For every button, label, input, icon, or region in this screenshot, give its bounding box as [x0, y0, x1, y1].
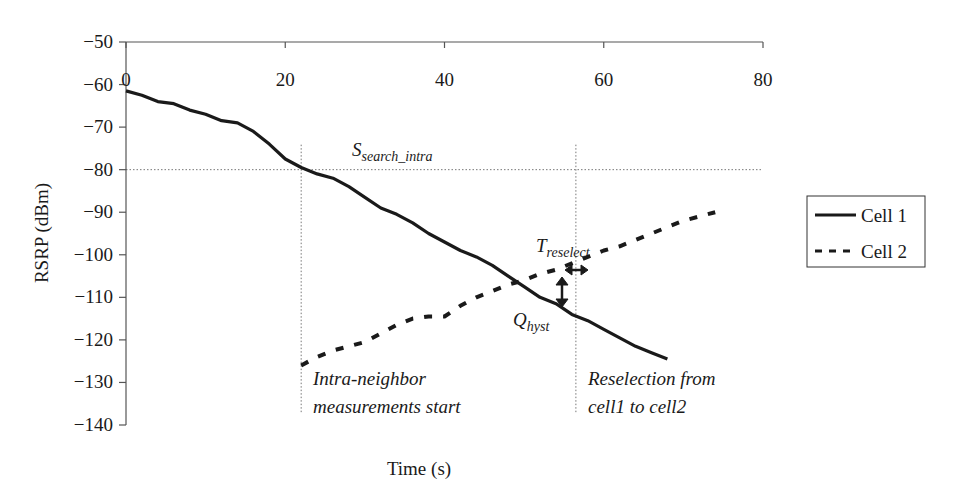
s-sub: search_intra	[362, 149, 433, 164]
q-hyst-label: Qhyst	[513, 309, 550, 334]
reselection-label-line1: Reselection from	[587, 368, 716, 389]
y-tick-label: −100	[74, 244, 113, 265]
legend: Cell 1 Cell 2	[807, 196, 925, 267]
s-main: S	[352, 139, 362, 160]
y-tick-label: −130	[74, 371, 113, 392]
q-main: Q	[513, 309, 527, 330]
x-tick-label: 0	[121, 69, 131, 90]
t-sub: reselect	[547, 245, 591, 260]
intra-neighbor-label-line2: measurements start	[313, 396, 461, 417]
x-tick-label: 40	[435, 69, 454, 90]
cell2-line	[301, 212, 715, 365]
y-tick-label: −140	[74, 414, 113, 435]
chart-svg: −50−60−70−80−90−100−110−120−130−14002040…	[0, 0, 958, 504]
y-tick-label: −70	[83, 116, 113, 137]
x-axis-title: Time (s)	[387, 458, 451, 480]
y-tick-label: −120	[74, 329, 113, 350]
x-tick-label: 80	[754, 69, 773, 90]
x-tick-label: 20	[276, 69, 295, 90]
legend-label-cell2: Cell 2	[861, 241, 907, 262]
y-tick-label: −110	[74, 286, 113, 307]
legend-label-cell1: Cell 1	[861, 205, 907, 226]
q-sub: hyst	[527, 319, 551, 334]
data-series	[126, 91, 715, 366]
t-reselect-label: Treselect	[536, 235, 591, 260]
reselection-label-line2: cell1 to cell2	[588, 396, 687, 417]
q-hyst-arrow-icon	[556, 277, 568, 307]
x-tick-label: 60	[594, 69, 613, 90]
y-tick-label: −50	[83, 31, 113, 52]
y-tick-label: −60	[83, 74, 113, 95]
cell1-line	[126, 91, 667, 359]
chart: −50−60−70−80−90−100−110−120−130−14002040…	[0, 0, 958, 504]
s-search-intra-label: Ssearch_intra	[352, 139, 433, 164]
y-tick-label: −90	[83, 201, 113, 222]
y-tick-label: −80	[83, 159, 113, 180]
intra-neighbor-label-line1: Intra-neighbor	[312, 368, 427, 389]
y-axis-title: RSRP (dBm)	[31, 183, 53, 283]
